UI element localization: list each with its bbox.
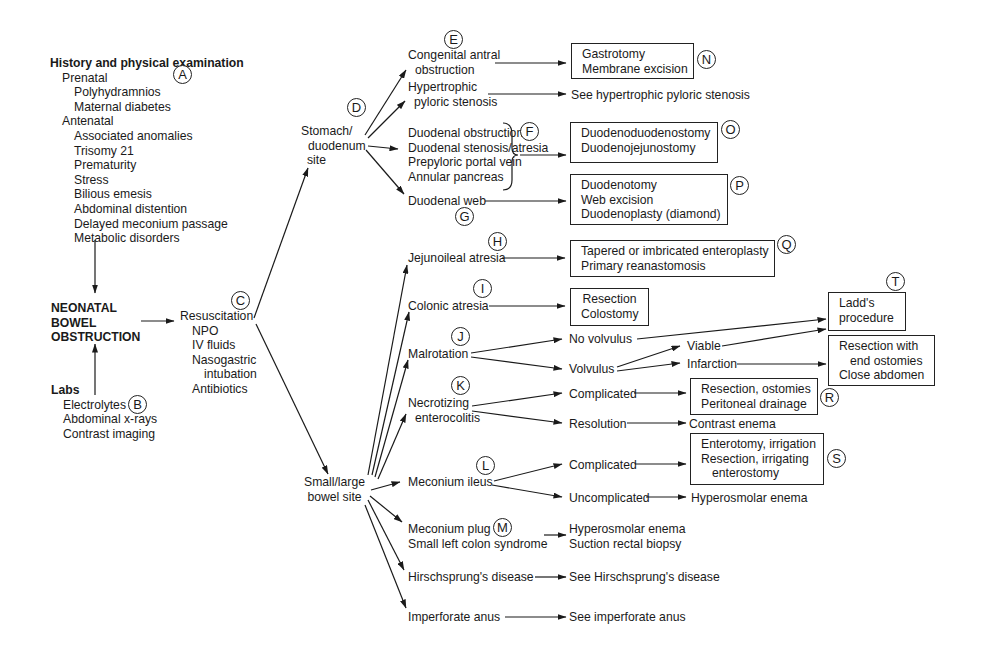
- meconium-plug: Meconium plug Small left colon syndrome: [408, 522, 548, 551]
- marker-p: P: [730, 176, 749, 195]
- treatment-line: Duodenojejunostomy: [581, 141, 707, 156]
- antenatal-item: Abdominal distention: [50, 202, 244, 217]
- resuscitation-item: NPO: [180, 324, 257, 339]
- box-resection-ostomies: Resection, ostomies Peritoneal drainage: [690, 378, 818, 415]
- marker-g: G: [455, 207, 474, 226]
- branch-line: pyloric stenosis: [408, 95, 497, 110]
- marker-q: Q: [777, 235, 796, 254]
- neonatal-bowel-obstruction-flowchart: History and physical examination Prenata…: [0, 0, 982, 662]
- meconium-plug-targets: Hyperosmolar enema Suction rectal biopsy: [569, 522, 686, 551]
- marker-s: S: [827, 449, 846, 468]
- stomach-site-line: site: [301, 153, 366, 168]
- treatment-line: Enterotomy, irrigation: [701, 437, 813, 452]
- prenatal-item: Maternal diabetes: [50, 100, 244, 115]
- nec-line: enterocolitis: [408, 411, 480, 426]
- meconium-plug-line: Small left colon syndrome: [408, 537, 548, 552]
- central-line: BOWEL: [51, 316, 140, 331]
- nec-complicated: Complicated: [569, 387, 637, 402]
- contrast-enema: Contrast enema: [689, 417, 776, 432]
- marker-k: K: [451, 376, 470, 395]
- labs-item: Abdominal x-rays: [51, 412, 157, 427]
- necrotizing-enterocolitis: Necrotizing enterocolitis: [408, 396, 480, 425]
- imperforate-anus: Imperforate anus: [408, 610, 500, 625]
- stomach-site-line: duodenum: [301, 139, 366, 154]
- antenatal-label: Antenatal: [50, 114, 244, 129]
- treatment-line: Resection: [581, 292, 638, 307]
- neonatal-bowel-obstruction: NEONATAL BOWEL OBSTRUCTION: [51, 301, 140, 345]
- marker-j: J: [451, 327, 470, 346]
- congenital-antral-obstruction: Congenital antral obstruction: [408, 48, 500, 77]
- marker-d: D: [347, 98, 366, 117]
- treatment-line: Close abdomen: [839, 368, 924, 383]
- bowel-site-line: Small/large: [304, 475, 365, 490]
- treatment-line: Resection with: [839, 339, 924, 354]
- meconium-ileus-complicated: Complicated: [569, 458, 637, 473]
- duodenal-item: Prepyloric portal vein: [408, 155, 548, 170]
- prenatal-item: Polyhydramnios: [50, 85, 244, 100]
- treatment-line: Duodenoplasty (diamond): [581, 207, 717, 222]
- see-hirschsprungs-disease: See Hirschsprung's disease: [569, 570, 720, 585]
- meconium-ileus-uncomplicated: Uncomplicated: [569, 491, 650, 506]
- antenatal-item: Metabolic disorders: [50, 231, 244, 246]
- target-line: Hyperosmolar enema: [569, 522, 686, 537]
- nec-resolution: Resolution: [569, 417, 627, 432]
- marker-c: C: [231, 291, 250, 310]
- marker-l: L: [476, 456, 495, 475]
- antenatal-item: Associated anomalies: [50, 129, 244, 144]
- treatment-line: procedure: [839, 311, 895, 326]
- volvulus: Volvulus: [569, 362, 614, 377]
- labs-item: Contrast imaging: [51, 427, 157, 442]
- small-large-bowel-site: Small/large bowel site: [304, 475, 365, 504]
- treatment-line: Resection, irrigating: [701, 452, 813, 467]
- history-title: History and physical examination: [50, 56, 244, 71]
- resuscitation-item: intubation: [180, 367, 257, 382]
- resuscitation-item: Antibiotics: [180, 382, 257, 397]
- nec-line: Necrotizing: [408, 396, 480, 411]
- hyperosmolar-enema: Hyperosmolar enema: [691, 491, 808, 506]
- antenatal-item: Trisomy 21: [50, 144, 244, 159]
- treatment-line: Peritoneal drainage: [701, 397, 807, 412]
- meconium-plug-line: Meconium plug: [408, 522, 548, 537]
- treatment-line: Primary reanastomosis: [581, 259, 764, 274]
- marker-m: M: [493, 518, 512, 537]
- antenatal-item: Delayed meconium passage: [50, 217, 244, 232]
- treatment-line: enterostomy: [701, 466, 813, 481]
- colonic-atresia: Colonic atresia: [408, 299, 489, 314]
- central-line: NEONATAL: [51, 301, 140, 316]
- marker-b: B: [128, 395, 147, 414]
- no-volvulus: No volvulus: [569, 332, 632, 347]
- treatment-line: Web excision: [581, 193, 717, 208]
- infarction: Infarction: [687, 357, 737, 372]
- treatment-line: Gastrotomy: [582, 47, 683, 62]
- meconium-ileus: Meconium ileus: [408, 475, 493, 490]
- antenatal-item: Stress: [50, 173, 244, 188]
- treatment-line: Membrane excision: [582, 62, 683, 77]
- duodenal-web: Duodenal web: [408, 194, 486, 209]
- duodenal-item: Duodenal stenosis/atresia: [408, 141, 548, 156]
- hirschsprungs-disease: Hirschsprung's disease: [408, 570, 534, 585]
- treatment-line: Tapered or imbricated enteroplasty: [581, 244, 764, 259]
- marker-i: I: [473, 279, 492, 298]
- branch-line: Congenital antral: [408, 48, 500, 63]
- prenatal-label: Prenatal: [50, 71, 244, 86]
- marker-t: T: [886, 272, 905, 291]
- jejunoileal-atresia: Jejunoileal atresia: [408, 251, 506, 266]
- bowel-site-line: bowel site: [304, 490, 365, 505]
- central-line: OBSTRUCTION: [51, 330, 140, 345]
- box-ladds-procedure: Ladd's procedure: [828, 292, 906, 331]
- resuscitation-item: Nasogastric: [180, 353, 257, 368]
- marker-e: E: [444, 30, 463, 49]
- treatment-line: end ostomies: [839, 354, 924, 369]
- treatment-line: Colostomy: [581, 307, 638, 322]
- resuscitation-section: Resuscitation NPO IV fluids Nasogastric …: [180, 309, 257, 397]
- hypertrophic-pyloric-stenosis: Hypertrophic pyloric stenosis: [408, 80, 497, 109]
- see-imperforate-anus: See imperforate anus: [569, 610, 686, 625]
- duodenal-item: Annular pancreas: [408, 170, 548, 185]
- marker-n: N: [697, 50, 716, 69]
- stomach-site-line: Stomach/: [301, 124, 366, 139]
- marker-r: R: [820, 388, 839, 407]
- treatment-line: Duodenotomy: [581, 178, 717, 193]
- treatment-line: Ladd's: [839, 296, 895, 311]
- branch-line: obstruction: [408, 63, 500, 78]
- box-duodenotomy: Duodenotomy Web excision Duodenoplasty (…: [570, 174, 728, 225]
